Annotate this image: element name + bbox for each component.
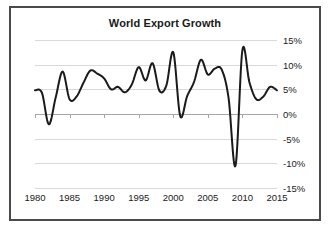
y-axis-label: -10% bbox=[283, 158, 305, 169]
x-axis-label: 1995 bbox=[128, 192, 149, 203]
y-axis-label: 5% bbox=[283, 84, 297, 95]
gridline bbox=[35, 188, 277, 189]
chart-title: World Export Growth bbox=[11, 17, 319, 29]
x-axis-label: 2000 bbox=[163, 192, 184, 203]
y-axis-label: -5% bbox=[283, 133, 300, 144]
x-axis-label: 1985 bbox=[59, 192, 80, 203]
chart-frame: World Export Growth 15%10%5%0%-5%-10%-15… bbox=[9, 6, 321, 221]
y-axis-label: 0% bbox=[283, 109, 297, 120]
y-axis-label: 10% bbox=[283, 59, 302, 70]
plot-area bbox=[35, 40, 277, 188]
x-axis-tick bbox=[277, 114, 278, 118]
x-axis-label: 1990 bbox=[94, 192, 115, 203]
series-line-world-export-growth bbox=[35, 40, 277, 188]
y-axis-label: 15% bbox=[283, 35, 302, 46]
x-axis-label: 2010 bbox=[232, 192, 253, 203]
x-axis-label: 1980 bbox=[24, 192, 45, 203]
x-axis-label: 2005 bbox=[197, 192, 218, 203]
x-axis-label: 2015 bbox=[266, 192, 287, 203]
